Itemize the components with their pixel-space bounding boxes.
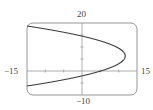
y-max-label: 20 xyxy=(77,10,86,19)
y-min-label: −10 xyxy=(76,97,90,106)
x-max-label: 15 xyxy=(141,67,150,76)
parabola-curve xyxy=(27,26,125,86)
x-min-label: −15 xyxy=(4,67,18,76)
